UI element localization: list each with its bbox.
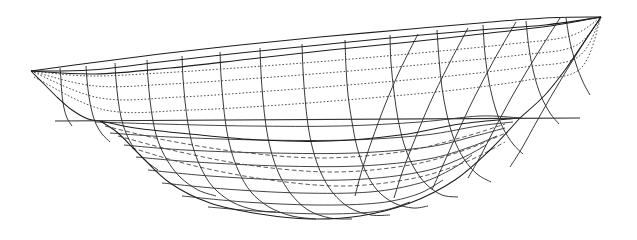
hull-wireframe-canvas bbox=[0, 0, 637, 240]
hull-lines-figure: Ship Hull Lines Plan — Perspective Wiref… bbox=[0, 0, 637, 240]
